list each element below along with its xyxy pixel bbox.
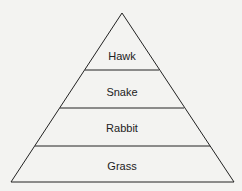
level-label-hawk: Hawk — [108, 50, 136, 62]
level-label-rabbit: Rabbit — [106, 122, 138, 134]
level-label-grass: Grass — [107, 160, 137, 172]
level-label-snake: Snake — [106, 86, 137, 98]
food-pyramid: Hawk Snake Rabbit Grass — [0, 0, 242, 191]
